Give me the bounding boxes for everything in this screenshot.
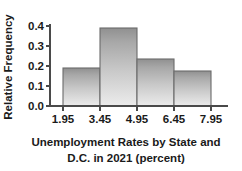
bar-1 — [63, 68, 100, 106]
bar-3 — [137, 59, 174, 106]
y-tick-label-0.0: 0.0 — [28, 100, 44, 112]
histogram-figure: Relative Frequency 0.4 0.3 0.2 0.1 0.0 — [0, 0, 242, 171]
y-tick-label-0.3: 0.3 — [28, 40, 44, 52]
y-axis-title: Relative Frequency — [2, 14, 14, 120]
x-tick-label-4.95: 4.95 — [126, 113, 149, 125]
x-axis-title-line1: Unemployment Rates by State and — [31, 136, 220, 148]
y-tick-label-0.4: 0.4 — [28, 20, 45, 32]
x-tick-label-7.95: 7.95 — [200, 113, 223, 125]
x-tick-label-6.45: 6.45 — [163, 113, 186, 125]
bar-2 — [100, 28, 137, 106]
x-tick-label-1.95: 1.95 — [52, 113, 75, 125]
y-tick-label-0.1: 0.1 — [28, 80, 45, 92]
y-tick-label-0.2: 0.2 — [28, 60, 44, 72]
x-tick-label-3.45: 3.45 — [89, 113, 112, 125]
x-axis-title-line2: D.C. in 2021 (percent) — [67, 152, 185, 164]
relative-frequency-histogram: Relative Frequency 0.4 0.3 0.2 0.1 0.0 — [0, 0, 242, 171]
bar-4 — [174, 71, 211, 106]
